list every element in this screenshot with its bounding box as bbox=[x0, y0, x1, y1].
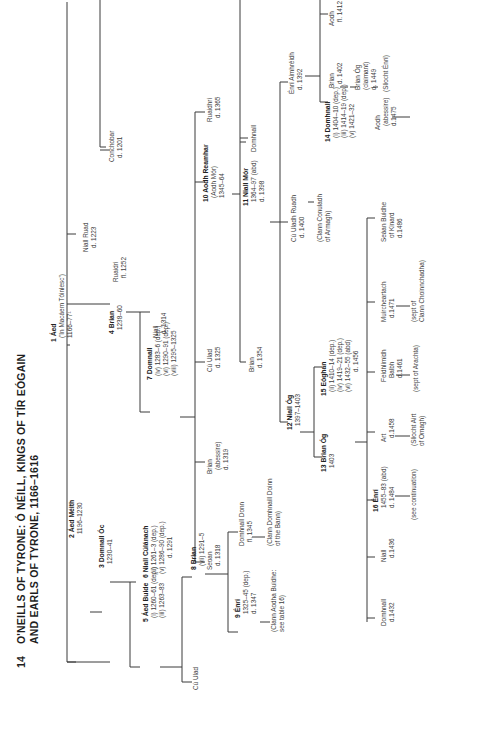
svg-text:Balbh: Balbh bbox=[388, 361, 395, 378]
svg-text:1455–83 (abd): 1455–83 (abd) bbox=[380, 466, 388, 508]
svg-text:d. 1318: d. 1318 bbox=[214, 544, 221, 566]
person-brian-1402[interactable]: Brian d. 1402 bbox=[328, 62, 343, 88]
svg-text:Aodh: Aodh bbox=[328, 11, 335, 26]
person-niall-1436[interactable]: Niall d.1436 bbox=[380, 538, 395, 562]
person-feidhlimidh[interactable]: Feidhlimidh Balbh d.1461 bbox=[380, 349, 403, 382]
svg-text:of Kinard: of Kinard bbox=[388, 212, 395, 238]
person-aodh-1475[interactable]: Aodh (abessire) d.1475 bbox=[374, 98, 397, 130]
note-sept-clann-choinnchadha: (sept of Clann Choinnchadha) bbox=[410, 260, 426, 322]
svg-text:Feidhlimidh: Feidhlimidh bbox=[380, 349, 387, 382]
svg-text:Ruaidri: Ruaidri bbox=[112, 262, 119, 282]
page-title: 14 O'NEILLS OF TYRONE: Ó NÉILL, KINGS OF… bbox=[15, 354, 40, 668]
person-conchobar[interactable]: Conchobar d. 1201 bbox=[108, 130, 123, 162]
svg-text:(Aodh Mór): (Aodh Mór) bbox=[210, 166, 218, 198]
svg-text:Énrí Aimhréidh: Énrí Aimhréidh bbox=[287, 52, 295, 94]
svg-text:(see continuation): (see continuation) bbox=[410, 469, 418, 520]
svg-text:fl. 1412: fl. 1412 bbox=[336, 1, 343, 22]
person-aodh-10[interactable]: 10 Aodh Reamhar (Aodh Mór) 1345–64 bbox=[202, 144, 225, 202]
svg-text:10 Aodh Reamhar: 10 Aodh Reamhar bbox=[202, 144, 209, 202]
person-ruaidri-1252[interactable]: Ruaidri fl. 1252 bbox=[112, 257, 127, 282]
svg-text:of the Bann): of the Bann) bbox=[274, 511, 282, 546]
person-brian-13[interactable]: 13 Brian Óg 1403 bbox=[319, 434, 335, 472]
svg-text:Brian: Brian bbox=[206, 459, 213, 474]
svg-text:d. 1449: d. 1449 bbox=[370, 68, 377, 90]
person-art-1458[interactable]: Art d.1458 bbox=[380, 418, 395, 442]
svg-text:(abessire): (abessire) bbox=[214, 442, 222, 470]
svg-text:Aodh: Aodh bbox=[374, 115, 381, 130]
svg-text:of Armagh): of Armagh) bbox=[324, 211, 332, 242]
person-domhnall[interactable]: Domhnall bbox=[250, 125, 257, 152]
svg-text:d.1461: d.1461 bbox=[396, 358, 403, 378]
person-cu-uladh-ruadh[interactable]: Cú Uladh Ruadh d. 1400 bbox=[290, 194, 305, 242]
note-clann-conuladh: (Clann Conuladh of Armagh) bbox=[316, 194, 332, 242]
person-eoghan-15[interactable]: 15 Eóghan (ii) 1410–14 (dep.) (iv) 1419–… bbox=[320, 338, 359, 396]
svg-text:Niall: Niall bbox=[380, 550, 387, 562]
person-niall-1314[interactable]: Niall d. 1314 bbox=[152, 312, 167, 338]
person-seaan-buidhe[interactable]: Seáan Buidhe of Kinard d.1486 bbox=[380, 201, 403, 242]
svg-text:(abessire): (abessire) bbox=[382, 98, 390, 126]
svg-text:13 Brian Óg: 13 Brian Óg bbox=[319, 434, 328, 472]
svg-text:d. 1365: d. 1365 bbox=[214, 96, 221, 118]
svg-text:1230–41: 1230–41 bbox=[106, 539, 113, 564]
svg-text:fl. 1345: fl. 1345 bbox=[246, 521, 253, 542]
svg-text:Domhnall: Domhnall bbox=[250, 125, 257, 152]
svg-text:Cú Ulad: Cú Ulad bbox=[192, 666, 199, 690]
person-brian-8[interactable]: 8 Brian (vii) 1291–5 bbox=[190, 532, 206, 570]
person-aed-meith[interactable]: 2 Áed Méith 1196–1230 bbox=[67, 500, 83, 538]
person-brian-1354[interactable]: Brian d. 1354 bbox=[248, 346, 263, 372]
title-line-2: AND EARLS OF TYRONE, 1166–1616 bbox=[28, 455, 40, 644]
svg-text:6 Niall Cúlánach: 6 Niall Cúlánach bbox=[142, 525, 149, 578]
svg-text:Niall Ruad: Niall Ruad bbox=[82, 222, 89, 252]
person-seoan[interactable]: Seoan d. 1318 bbox=[206, 544, 221, 570]
svg-text:(Clann Conuladh: (Clann Conuladh bbox=[316, 194, 324, 242]
svg-text:d. 1456: d. 1456 bbox=[352, 350, 359, 372]
svg-text:(Clann Aodha Buidhe:: (Clann Aodha Buidhe: bbox=[270, 570, 278, 632]
title-line-1: O'NEILLS OF TYRONE: Ó NÉILL, KINGS OF TÍ… bbox=[15, 354, 27, 644]
person-ruaidhri-1365[interactable]: Ruaidhri d. 1365 bbox=[206, 96, 221, 122]
svg-text:d. 1291: d. 1291 bbox=[166, 536, 173, 558]
person-brian-4[interactable]: 4 Brian 1238–60 bbox=[108, 305, 123, 334]
svg-text:d.1432: d.1432 bbox=[388, 602, 395, 622]
genealogy-page: 14 O'NEILLS OF TYRONE: Ó NÉILL, KINGS OF… bbox=[0, 0, 484, 742]
svg-text:d. 1484: d. 1484 bbox=[388, 486, 395, 508]
svg-text:(viii) 1295–1325: (viii) 1295–1325 bbox=[170, 330, 178, 376]
svg-text:Brian Óg: Brian Óg bbox=[353, 64, 362, 90]
person-enri-16[interactable]: 16 Énrí 1455–83 (abd) d. 1484 bbox=[371, 466, 395, 512]
svg-text:Niall: Niall bbox=[152, 326, 159, 338]
svg-text:(Sliocht Énrí): (Sliocht Énrí) bbox=[381, 55, 390, 92]
person-domhnall-1432[interactable]: Domhnall d.1432 bbox=[380, 599, 395, 626]
person-cu-ulad[interactable]: Cú Ulad bbox=[192, 666, 199, 690]
person-enri-aimhreidh[interactable]: Énrí Aimhréidh d. 1392 bbox=[287, 52, 303, 94]
person-muircheartach[interactable]: Muircheartach d.1471 bbox=[380, 281, 395, 322]
person-domnall-oc[interactable]: 3 Domnall Óc 1230–41 bbox=[97, 524, 113, 568]
svg-text:9 Énrí: 9 Énrí bbox=[233, 598, 241, 618]
svg-text:16 Énrí: 16 Énrí bbox=[371, 488, 379, 512]
person-domhnall-14[interactable]: 14 Domhnall (i) 1404–10 (dep.) (iii) 141… bbox=[324, 84, 356, 142]
person-domhnall-donn[interactable]: Domhnall Donn fl. 1345 bbox=[238, 502, 253, 546]
svg-text:d.1436: d.1436 bbox=[388, 538, 395, 558]
note-clann-domhnaill-duinn: (Clann Domhnaill Doinn of the Bann) bbox=[266, 478, 282, 546]
svg-text:d.1471: d.1471 bbox=[388, 298, 395, 318]
svg-text:7 Domnall: 7 Domnall bbox=[146, 347, 153, 380]
person-cu-ulad-1325[interactable]: Cú Ulad d. 1325 bbox=[206, 346, 221, 372]
svg-text:d. 1398: d. 1398 bbox=[258, 180, 265, 202]
person-niall-ruad[interactable]: Niall Ruad d. 1223 bbox=[82, 222, 97, 252]
note-clann-aodha-buidhe: (Clann Aodha Buidhe: see table 16) bbox=[270, 570, 286, 632]
person-brian-abessire[interactable]: Brian (abessire) d. 1319 bbox=[206, 442, 229, 474]
svg-text:1196–1230: 1196–1230 bbox=[76, 502, 83, 534]
person-enri-9[interactable]: 9 Énrí 1325–45 (dep.) d. 1347 bbox=[233, 571, 257, 618]
person-niall-12[interactable]: 12 Niall Óg 1397–1403 bbox=[285, 394, 301, 430]
svg-text:3 Domnall Óc: 3 Domnall Óc bbox=[97, 524, 105, 568]
svg-text:d.1475: d.1475 bbox=[390, 106, 397, 126]
svg-text:14 Domhnall: 14 Domhnall bbox=[324, 101, 331, 142]
person-brian-og-claimant[interactable]: Brian Óg (claimant) d. 1449 bbox=[353, 62, 377, 90]
person-aodh-1412[interactable]: Aodh fl. 1412 bbox=[328, 1, 343, 26]
person-niall-11[interactable]: 11 Niall Mór 1364–97 (abd) d. 1398 bbox=[242, 160, 265, 206]
person-aed-1[interactable]: 1 Áed ('In Macáem Tóinlesc') 1166–77¹ bbox=[49, 274, 73, 342]
svg-text:d. 1392: d. 1392 bbox=[296, 68, 303, 90]
svg-text:d. 1400: d. 1400 bbox=[298, 216, 305, 238]
svg-text:Seáan Buidhe: Seáan Buidhe bbox=[380, 201, 387, 242]
svg-text:d. 1223: d. 1223 bbox=[90, 226, 97, 248]
person-niall-culanach[interactable]: 6 Niall Cúlánach (ii) 1261–3 (dep.) (v) … bbox=[142, 521, 173, 578]
svg-text:4 Brian: 4 Brian bbox=[108, 311, 115, 334]
